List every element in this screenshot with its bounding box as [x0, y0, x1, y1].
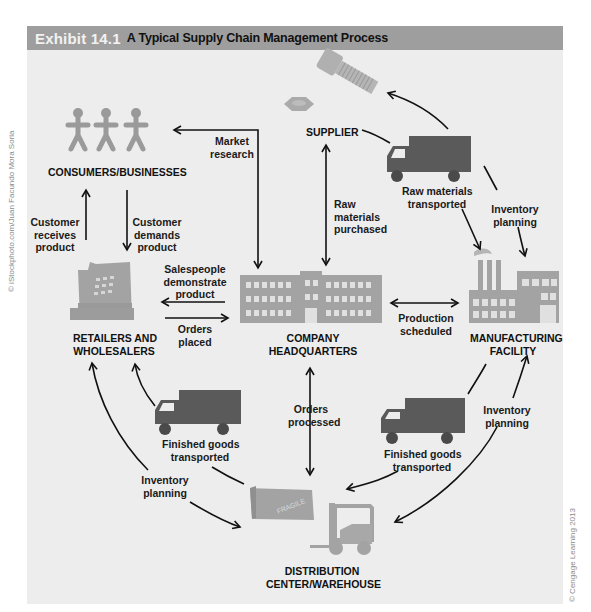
node-distribution-line2: CENTER/WAREHOUSE [266, 578, 378, 591]
truck-icon [155, 390, 241, 435]
label-line: Raw [334, 198, 387, 211]
label-line: Production [396, 312, 456, 325]
label-line: Inventory [490, 203, 540, 216]
label-line: Inventory [482, 404, 532, 417]
truck-to-supplier-arrow [388, 93, 448, 129]
raw-materials-to-factory-arrow [462, 209, 480, 249]
node-retailers-line2: WHOLESALERS [73, 345, 155, 358]
label-line: research [210, 148, 254, 161]
factory-to-truck-line [468, 364, 486, 394]
label-finished-goods-right: Finished goods transported [384, 448, 460, 473]
cash-register-icon [70, 262, 134, 320]
label-orders-processed: Orders processed [288, 403, 334, 428]
factory-icon [469, 248, 559, 323]
label-finished-goods-left: Finished goods transported [162, 438, 238, 463]
label-line: planning [490, 216, 540, 229]
label-line: planning [140, 487, 190, 500]
label-line: Raw materials [402, 185, 472, 198]
label-line: purchased [334, 223, 387, 236]
label-line: Orders [172, 323, 218, 336]
label-line: receives [30, 229, 80, 242]
node-distribution-line1: DISTRIBUTION [266, 565, 378, 578]
label-line: product [132, 241, 182, 254]
finished-goods-right-arrow [347, 471, 398, 489]
label-line: Orders [288, 403, 334, 416]
label-customer-receives-product: Customer receives product [30, 216, 80, 254]
node-distribution-center: DISTRIBUTION CENTER/WAREHOUSE [266, 565, 378, 591]
label-line: Inventory [140, 474, 190, 487]
node-manufacturing-line1: MANUFACTURING [470, 332, 556, 345]
finished-goods-left-arrow [135, 364, 155, 406]
label-customer-demands-product: Customer demands product [132, 216, 182, 254]
supplier-to-truck-line [362, 130, 390, 143]
diagram-canvas: FRAGILE [0, 0, 591, 612]
inventory-planning-right-up-arrow [513, 356, 527, 398]
label-line: scheduled [396, 325, 456, 338]
building-icon [240, 271, 382, 323]
node-supplier: SUPPLIER [306, 126, 359, 139]
label-production-scheduled: Production scheduled [396, 312, 456, 337]
label-raw-materials-transported: Raw materials transported [402, 185, 472, 210]
node-retailers-line1: RETAILERS AND [73, 332, 155, 345]
label-line: Finished goods [162, 438, 238, 451]
label-line: transported [384, 461, 460, 474]
label-line: product [30, 241, 80, 254]
node-consumers-businesses: CONSUMERS/BUSINESSES [48, 166, 187, 179]
label-line: Salespeople [162, 263, 228, 276]
label-inventory-planning-top: Inventory planning [490, 203, 540, 228]
forklift-icon [310, 503, 372, 555]
label-line: processed [288, 416, 334, 429]
node-company-headquarters: COMPANY HEADQUARTERS [268, 332, 358, 358]
label-line: placed [172, 336, 218, 349]
truck-icon [381, 398, 465, 444]
label-line: materials [334, 211, 387, 224]
inventory-planning-left-to-warehouse [190, 502, 240, 527]
label-raw-materials-purchased: Raw materials purchased [334, 198, 387, 236]
people-icon [68, 108, 146, 149]
label-inventory-planning-left: Inventory planning [140, 474, 190, 499]
label-line: Finished goods [384, 448, 460, 461]
label-salespeople-demonstrate-product: Salespeople demonstrate product [162, 263, 228, 301]
credit-istockphoto: © iStockphoto.com/Juan Facundo Mora Sori… [7, 130, 16, 292]
fragile-box-icon: FRAGILE [250, 486, 314, 520]
bolt-nut-icon [284, 47, 380, 111]
node-manufacturing-facility: MANUFACTURING FACILITY [470, 332, 556, 358]
credit-cengage: © Cengage Learning 2013 [568, 508, 577, 602]
node-hq-line2: HEADQUARTERS [268, 345, 358, 358]
label-line: demands [132, 229, 182, 242]
label-inventory-planning-right: Inventory planning [482, 404, 532, 429]
label-orders-placed: Orders placed [172, 323, 218, 348]
node-retailers-wholesalers: RETAILERS AND WHOLESALERS [73, 332, 155, 358]
inventory-planning-top-arrow [518, 227, 525, 256]
truck-icon [387, 136, 471, 182]
label-line: transported [162, 451, 238, 464]
label-line: transported [402, 198, 472, 211]
label-line: Customer [30, 216, 80, 229]
label-line: product [162, 288, 228, 301]
node-hq-line1: COMPANY [268, 332, 358, 345]
label-line: Customer [132, 216, 182, 229]
node-manufacturing-line2: FACILITY [470, 345, 556, 358]
label-line: Market [210, 135, 254, 148]
inventory-planning-top-line [484, 166, 497, 190]
label-line: demonstrate [162, 276, 228, 289]
finished-goods-left-to-warehouse [212, 467, 244, 484]
label-market-research: Market research [210, 135, 254, 160]
label-line: planning [482, 417, 532, 430]
